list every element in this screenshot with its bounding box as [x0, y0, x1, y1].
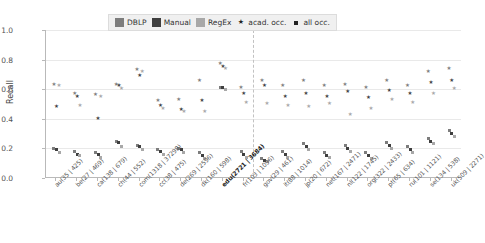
data-point: [58, 151, 61, 154]
data-point: [448, 129, 451, 132]
legend-item[interactable]: ★acad. occ.: [236, 18, 286, 27]
square-swatch-icon: [115, 18, 124, 27]
data-point: [427, 137, 430, 140]
legend-label: acad. occ.: [248, 18, 286, 27]
legend-item[interactable]: all occ.: [291, 18, 329, 27]
data-point: [94, 151, 97, 154]
data-point: [159, 150, 162, 153]
data-point: [281, 150, 284, 153]
chart-legend: DBLPManualRegEx★acad. occ.all occ.: [108, 14, 337, 31]
data-point: [76, 153, 79, 156]
y-axis-tick-label: 0.8: [1, 56, 13, 65]
data-point: [284, 153, 287, 156]
data-point: [97, 153, 100, 156]
legend-label: DBLP: [127, 18, 147, 27]
y-axis-tick-label: 1.0: [1, 26, 13, 35]
data-point: [429, 140, 432, 143]
data-point: [432, 142, 435, 145]
data-point: [323, 151, 326, 154]
y-axis-tick-mark: [42, 178, 45, 179]
square-glyph: [294, 21, 298, 25]
legend-item[interactable]: RegEx: [196, 18, 231, 27]
y-axis-tick-label: 0.6: [1, 85, 13, 94]
data-point: [364, 151, 367, 154]
square-swatch-icon: [196, 18, 205, 27]
y-axis-tick-label: 0.0: [1, 174, 13, 183]
data-point: [450, 132, 453, 135]
legend-label: Manual: [164, 18, 191, 27]
data-point: [385, 141, 388, 144]
data-point: [182, 151, 185, 154]
data-point: [325, 154, 328, 157]
y-axis-tick-label: 0.4: [1, 115, 13, 124]
data-point: [328, 156, 331, 159]
star-marker-icon: ★: [236, 19, 245, 26]
y-axis-tick-label: 0.2: [1, 144, 13, 153]
data-point: [240, 150, 243, 153]
data-point: [117, 141, 120, 144]
legend-label: RegEx: [208, 18, 231, 27]
data-point: [349, 150, 352, 153]
data-point: [302, 142, 305, 145]
data-point: [115, 140, 118, 143]
data-point: [388, 144, 391, 147]
data-point: [344, 144, 347, 147]
square-swatch-icon: [152, 18, 161, 27]
data-point: [198, 151, 201, 154]
legend-item[interactable]: Manual: [152, 18, 191, 27]
legend-item[interactable]: DBLP: [115, 18, 147, 27]
data-point: [453, 135, 456, 138]
square-marker-icon: [291, 21, 300, 25]
legend-label: all occ.: [303, 18, 329, 27]
data-point: [242, 153, 245, 156]
data-point: [411, 151, 414, 154]
data-point: [136, 144, 139, 147]
data-point: [73, 150, 76, 153]
